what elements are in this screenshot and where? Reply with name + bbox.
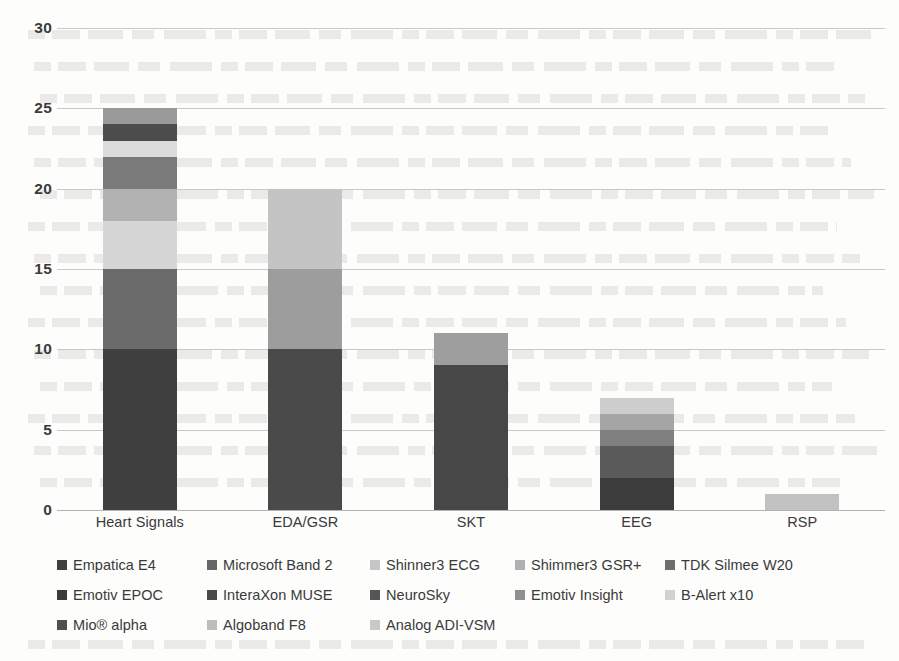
bar-segment[interactable]: [103, 221, 177, 269]
legend-item[interactable]: Mio® alpha: [57, 617, 207, 633]
legend-label: Emotiv EPOC: [73, 587, 163, 603]
legend-item[interactable]: TDK Silmee W20: [665, 557, 815, 573]
legend-item[interactable]: Shimmer3 GSR+: [515, 557, 665, 573]
y-axis: 051015202530: [8, 28, 52, 510]
bar-stack[interactable]: [765, 494, 839, 510]
bar-segment[interactable]: [103, 269, 177, 349]
legend-label: Shimmer3 GSR+: [531, 557, 642, 573]
bar-group[interactable]: [765, 28, 839, 510]
legend-row: Empatica E4Microsoft Band 2Shinner3 ECGS…: [57, 550, 887, 580]
y-axis-tick-label: 5: [12, 421, 52, 439]
bar-series-area: [57, 28, 885, 510]
legend-swatch-icon: [665, 590, 675, 600]
bar-segment[interactable]: [765, 494, 839, 510]
y-axis-tick-label: 20: [12, 180, 52, 198]
legend-label: NeuroSky: [386, 587, 450, 603]
bar-segment[interactable]: [103, 189, 177, 221]
x-axis-category-label: SKT: [388, 514, 554, 530]
legend-swatch-icon: [665, 560, 675, 570]
bar-group[interactable]: [103, 28, 177, 510]
bar-segment[interactable]: [600, 446, 674, 478]
legend-item[interactable]: NeuroSky: [370, 587, 515, 603]
x-axis-category-labels: Heart SignalsEDA/GSRSKTEEGRSP: [57, 514, 885, 540]
legend-swatch-icon: [57, 620, 67, 630]
bar-stack[interactable]: [268, 189, 342, 510]
legend-label: Algoband F8: [223, 617, 306, 633]
legend-label: Emotiv Insight: [531, 587, 623, 603]
bar-segment[interactable]: [600, 398, 674, 414]
legend-item[interactable]: InteraXon MUSE: [207, 587, 370, 603]
bar-segment[interactable]: [268, 269, 342, 349]
legend-swatch-icon: [57, 590, 67, 600]
legend-label: Mio® alpha: [73, 617, 147, 633]
bar-segment[interactable]: [600, 430, 674, 446]
x-axis-category-label: RSP: [719, 514, 885, 530]
legend-label: InteraXon MUSE: [223, 587, 333, 603]
legend-item[interactable]: Emotiv Insight: [515, 587, 665, 603]
legend-item[interactable]: Algoband F8: [207, 617, 370, 633]
bar-segment[interactable]: [103, 157, 177, 189]
legend-label: Analog ADI-VSM: [386, 617, 496, 633]
legend-swatch-icon: [57, 560, 67, 570]
stacked-bar-chart: 051015202530 Heart SignalsEDA/GSRSKTEEGR…: [0, 0, 899, 661]
y-axis-tick-label: 30: [12, 19, 52, 37]
legend-swatch-icon: [207, 590, 217, 600]
legend-swatch-icon: [207, 560, 217, 570]
chart-legend: Empatica E4Microsoft Band 2Shinner3 ECGS…: [57, 550, 887, 640]
bar-group[interactable]: [600, 28, 674, 510]
bar-segment[interactable]: [434, 365, 508, 510]
legend-label: B-Alert x10: [681, 587, 753, 603]
bar-segment[interactable]: [103, 141, 177, 157]
legend-label: Microsoft Band 2: [223, 557, 333, 573]
y-axis-tick-label: 0: [12, 501, 52, 519]
bar-segment[interactable]: [103, 108, 177, 124]
y-axis-tick-label: 25: [12, 99, 52, 117]
bar-segment[interactable]: [600, 478, 674, 510]
legend-label: Empatica E4: [73, 557, 156, 573]
bar-segment[interactable]: [103, 349, 177, 510]
legend-item[interactable]: Emotiv EPOC: [57, 587, 207, 603]
legend-item[interactable]: Empatica E4: [57, 557, 207, 573]
bar-stack[interactable]: [600, 398, 674, 510]
gridline: [57, 510, 885, 511]
x-axis-category-label: EEG: [554, 514, 720, 530]
legend-item[interactable]: Analog ADI-VSM: [370, 617, 515, 633]
bar-group[interactable]: [434, 28, 508, 510]
bar-segment[interactable]: [600, 414, 674, 430]
bar-stack[interactable]: [434, 333, 508, 510]
y-axis-tick-label: 15: [12, 260, 52, 278]
legend-swatch-icon: [515, 560, 525, 570]
legend-label: TDK Silmee W20: [681, 557, 793, 573]
legend-item[interactable]: B-Alert x10: [665, 587, 815, 603]
legend-row: Emotiv EPOCInteraXon MUSENeuroSkyEmotiv …: [57, 580, 887, 610]
legend-swatch-icon: [515, 590, 525, 600]
y-axis-tick-label: 10: [12, 340, 52, 358]
bar-group[interactable]: [268, 28, 342, 510]
legend-label: Shinner3 ECG: [386, 557, 480, 573]
bar-segment[interactable]: [268, 189, 342, 269]
legend-row: Mio® alphaAlgoband F8Analog ADI-VSM: [57, 610, 887, 640]
legend-swatch-icon: [207, 620, 217, 630]
x-axis-category-label: Heart Signals: [57, 514, 223, 530]
bar-stack[interactable]: [103, 108, 177, 510]
legend-swatch-icon: [370, 560, 380, 570]
bar-segment[interactable]: [103, 124, 177, 140]
legend-swatch-icon: [370, 590, 380, 600]
bar-segment[interactable]: [434, 333, 508, 365]
legend-item[interactable]: Microsoft Band 2: [207, 557, 370, 573]
x-axis-category-label: EDA/GSR: [223, 514, 389, 530]
legend-item[interactable]: Shinner3 ECG: [370, 557, 515, 573]
bar-segment[interactable]: [268, 349, 342, 510]
legend-swatch-icon: [370, 620, 380, 630]
